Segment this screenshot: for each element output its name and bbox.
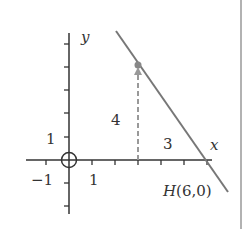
intercept-coords: (6,0): [176, 182, 212, 200]
sloped-line: [116, 31, 228, 192]
y-axis-label: y: [80, 28, 90, 46]
run-label: 3: [163, 135, 173, 153]
x-tick-label-1: 1: [89, 171, 99, 189]
point-3-4: [135, 62, 142, 69]
y-tick-label-1: 1: [46, 130, 56, 148]
intercept-label: H(6,0): [162, 182, 212, 200]
coordinate-plane-diagram: y x 1 −1 1 4 3 H(6,0): [0, 0, 243, 229]
rise-label: 4: [111, 111, 121, 129]
intercept-letter: H: [162, 182, 177, 200]
x-tick-label-neg1: −1: [31, 171, 53, 189]
x-axis-label: x: [210, 136, 219, 154]
